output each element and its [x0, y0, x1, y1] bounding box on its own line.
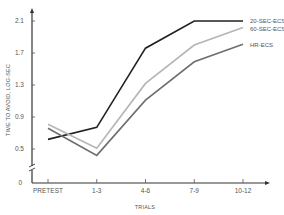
legend-label-20-sec-ecs: 20-SEC-ECS [250, 18, 284, 24]
y-tick-label: 2.1 [15, 17, 24, 24]
x-tick-label: 7-9 [190, 187, 200, 194]
y-axis-title: TIME TO AVOID, LOG-SEC [5, 64, 11, 136]
line-chart: 00.50.91.31.72.1PRETEST1-34-67-910-1220-… [0, 0, 284, 215]
x-tick-label: 4-6 [141, 187, 151, 194]
y-tick-label: 0.9 [15, 113, 24, 120]
x-axis-arrow [265, 181, 270, 185]
x-tick-label: 10-12 [235, 187, 252, 194]
legend-label-hr-ecs: HR-ECS [250, 42, 273, 48]
y-axis-arrow [30, 8, 34, 13]
legend-label-60-sec-ecs: 60-SEC-ECS [250, 26, 284, 32]
y-tick-label: 0 [18, 179, 22, 186]
labels-group: 00.50.91.31.72.1PRETEST1-34-67-910-1220-… [15, 17, 284, 194]
y-tick-label: 0.5 [15, 145, 24, 152]
x-tick-label: 1-3 [92, 187, 102, 194]
y-tick-label: 1.3 [15, 81, 24, 88]
y-axis-break-mark [29, 164, 35, 171]
x-tick-label: PRETEST [33, 187, 63, 194]
series-line-60-sec-ecs [48, 27, 243, 148]
x-axis-title: TRIALS [135, 204, 156, 210]
y-tick-label: 1.7 [15, 49, 24, 56]
series-group [48, 21, 243, 155]
